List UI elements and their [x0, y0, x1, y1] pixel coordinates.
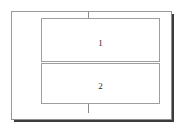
frame-shadow-right-edge — [172, 14, 174, 122]
panel-2-label: 2 — [98, 82, 103, 91]
panel-1: 1 — [41, 18, 160, 62]
panel-2: 2 — [41, 63, 160, 104]
diagram-canvas: 1 2 — [0, 0, 181, 130]
center-axis-tick-bottom — [88, 104, 89, 113]
panel-1-label: 1 — [98, 39, 103, 48]
frame-shadow-bottom-edge — [14, 120, 174, 122]
